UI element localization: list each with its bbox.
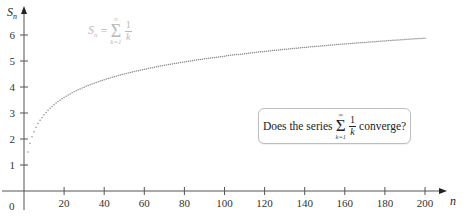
- data-point: [378, 41, 380, 43]
- data-point: [164, 65, 166, 67]
- data-point: [119, 74, 121, 76]
- data-point: [154, 67, 156, 69]
- data-point: [41, 117, 43, 119]
- data-point: [274, 50, 276, 52]
- data-point: [346, 43, 348, 45]
- data-point: [158, 66, 160, 68]
- data-point: [81, 87, 83, 89]
- data-point: [246, 53, 248, 55]
- data-point: [262, 51, 264, 53]
- data-point: [236, 54, 238, 56]
- data-point: [328, 45, 330, 47]
- data-point: [178, 62, 180, 64]
- x-axis-arrow-icon: [439, 188, 447, 194]
- data-point: [174, 63, 176, 64]
- formula-lhs: Sn: [88, 23, 98, 39]
- data-point: [162, 65, 164, 67]
- data-point: [256, 52, 258, 54]
- data-point: [146, 68, 148, 70]
- data-point: [166, 64, 168, 66]
- x-tick-label: 20: [59, 197, 71, 209]
- data-point: [388, 40, 390, 42]
- formula-sigma: n Σ k=1: [110, 16, 121, 46]
- data-point: [366, 41, 368, 43]
- data-point: [292, 48, 294, 50]
- sigma-icon: Σ: [336, 118, 346, 134]
- data-point: [342, 43, 344, 45]
- formula-fraction: 1 k: [125, 20, 132, 42]
- data-point: [264, 51, 266, 53]
- x-tick-label: 60: [139, 197, 151, 209]
- data-point: [272, 50, 274, 52]
- x-tick-label: 200: [417, 197, 434, 209]
- data-point: [406, 39, 408, 41]
- data-point: [324, 45, 326, 47]
- data-point: [396, 39, 398, 41]
- data-point: [204, 58, 206, 60]
- data-point: [410, 38, 412, 40]
- data-point: [25, 164, 27, 166]
- data-point: [186, 61, 188, 63]
- data-point: [182, 61, 184, 63]
- data-point: [306, 46, 308, 48]
- data-point: [242, 53, 244, 55]
- data-point: [282, 49, 284, 51]
- data-point: [214, 57, 216, 59]
- data-point: [400, 39, 402, 41]
- data-point: [172, 63, 174, 65]
- y-ticks: 123456: [10, 29, 29, 171]
- data-point: [73, 91, 75, 93]
- data-point: [117, 75, 119, 77]
- data-point: [362, 42, 364, 44]
- x-tick-label: 40: [99, 197, 111, 209]
- x-ticks: 20406080100120140160180200: [59, 187, 434, 209]
- y-tick-label: 4: [10, 81, 16, 93]
- data-point: [160, 65, 162, 67]
- data-point: [248, 52, 250, 54]
- data-point: [352, 43, 354, 45]
- data-point: [206, 58, 208, 60]
- data-point: [316, 46, 318, 48]
- data-point: [53, 104, 55, 106]
- data-point: [384, 40, 386, 42]
- data-point: [330, 44, 332, 46]
- data-point: [408, 38, 410, 40]
- data-point: [222, 56, 224, 58]
- data-point: [93, 82, 95, 84]
- data-point: [392, 40, 394, 42]
- data-point: [338, 44, 340, 46]
- data-point: [314, 46, 316, 48]
- data-point: [190, 60, 192, 62]
- data-points: [25, 37, 426, 165]
- data-point: [188, 61, 190, 63]
- data-point: [402, 39, 404, 41]
- formula-equals: =: [101, 24, 108, 39]
- x-tick-label: 180: [377, 197, 394, 209]
- x-axis-label: n: [450, 194, 456, 208]
- data-point: [130, 72, 132, 74]
- data-point: [286, 48, 288, 50]
- data-point: [115, 75, 117, 77]
- data-point: [180, 62, 182, 64]
- data-point: [29, 143, 31, 145]
- x-tick-label: 100: [216, 197, 233, 209]
- data-point: [300, 47, 302, 49]
- data-point: [134, 71, 136, 73]
- data-point: [394, 39, 396, 41]
- data-point: [240, 53, 242, 55]
- data-point: [304, 47, 306, 49]
- data-point: [382, 40, 384, 42]
- convergence-question-box: Does the series ∞ Σ k=1 1 k converge?: [258, 108, 411, 144]
- data-point: [99, 80, 101, 82]
- y-tick-label: 1: [10, 159, 16, 171]
- data-point: [268, 50, 270, 52]
- data-point: [290, 48, 292, 50]
- data-point: [87, 85, 89, 87]
- x-tick-label: 160: [337, 197, 354, 209]
- data-point: [45, 112, 47, 114]
- data-point: [238, 54, 240, 56]
- data-point: [79, 88, 81, 90]
- data-point: [270, 50, 272, 52]
- data-point: [364, 42, 366, 44]
- data-point: [320, 45, 322, 47]
